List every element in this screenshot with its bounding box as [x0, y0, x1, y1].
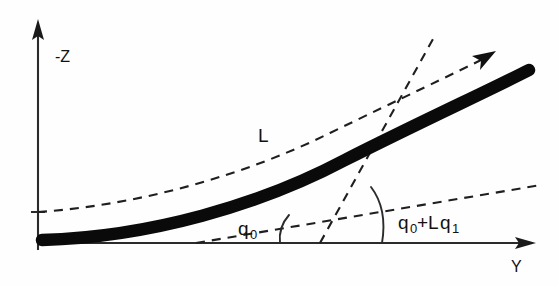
z-axis-label: -Z [55, 48, 70, 65]
angle-total-label-q-first: q [398, 212, 409, 233]
angle-arc-total [371, 187, 383, 243]
beam-length-label: L [258, 125, 269, 146]
angle-q0-label: q 0 [238, 218, 257, 242]
diagram-canvas: -Z Y L q 0 q 0 +L q 1 [0, 0, 559, 286]
angle-q0-label-base: q [238, 218, 249, 239]
angle-total-label-subscript-1: 1 [452, 221, 459, 236]
angle-total-label: q 0 +L q 1 [398, 212, 459, 236]
angle-q0-label-subscript: 0 [250, 227, 257, 242]
reference-curve-arrowhead [472, 51, 496, 70]
deflected-beam [42, 70, 529, 240]
angle-total-label-plus-l: +L [417, 212, 439, 233]
negative-z-axis [31, 19, 45, 250]
beam-slope-diagram: -Z Y L q 0 q 0 +L q 1 [0, 0, 559, 286]
y-axis-label: Y [511, 258, 522, 275]
angle-total-label-q-second: q [440, 212, 451, 233]
angle-arc-q0 [280, 215, 289, 243]
